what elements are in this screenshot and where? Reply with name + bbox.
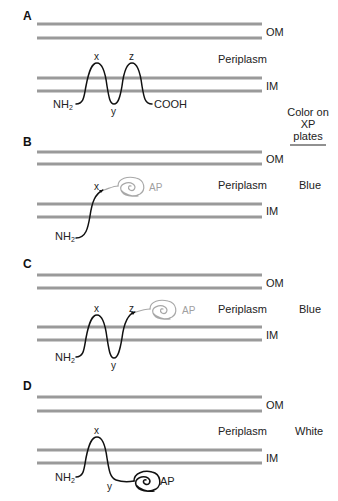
polypeptide-chain	[76, 190, 103, 238]
im-label: IM	[266, 205, 278, 217]
panel-letter: A	[23, 9, 32, 23]
periplasm-label: Periplasm	[218, 179, 267, 191]
polypeptide-chain	[76, 63, 152, 104]
ap-label: AP	[160, 475, 175, 487]
ap-linker	[104, 186, 118, 190]
n-terminus-label: NH2	[55, 351, 75, 364]
loop-y-label: y	[111, 106, 116, 117]
color-result: White	[295, 425, 323, 437]
ap-coil-cytoplasmic	[134, 471, 160, 491]
panel-b: B OM Periplasm Blue IM AP NH2 x	[23, 135, 321, 243]
panel-letter: B	[23, 135, 32, 149]
polypeptide-chain	[76, 312, 135, 358]
om-label: OM	[266, 26, 284, 38]
om-label: OM	[266, 277, 284, 289]
loop-z-label: z	[129, 51, 134, 62]
loop-y-label: y	[107, 481, 112, 492]
header-line-2: XP	[301, 118, 316, 130]
im-label: IM	[266, 80, 278, 92]
ap-label: AP	[149, 182, 163, 193]
n-terminus-label: NH2	[55, 471, 75, 484]
panel-letter: C	[23, 257, 32, 271]
header-line-1: Color on	[287, 106, 329, 118]
header-line-3: plates	[293, 130, 323, 142]
om-label: OM	[266, 399, 284, 411]
loop-x-label: x	[94, 425, 99, 436]
om-label: OM	[266, 153, 284, 165]
ap-coil-grey	[150, 300, 176, 319]
polypeptide-chain	[76, 437, 134, 482]
panel-letter: D	[23, 379, 32, 393]
periplasm-label: Periplasm	[218, 425, 267, 437]
c-terminus-label: COOH	[154, 98, 187, 110]
im-label: IM	[266, 452, 278, 464]
periplasm-label: Periplasm	[218, 53, 267, 65]
ap-linker	[136, 309, 150, 312]
panel-a: A OM Periplasm IM NH2 COOH x y z	[23, 9, 284, 117]
figure-canvas: Color on XP plates A OM Periplasm IM NH2…	[0, 0, 338, 501]
color-result: Blue	[299, 303, 321, 315]
membrane-topology-figure: Color on XP plates A OM Periplasm IM NH2…	[0, 0, 338, 501]
panel-c: C OM Periplasm Blue IM AP NH2 x y z	[23, 257, 321, 371]
im-label: IM	[266, 329, 278, 341]
color-column-header: Color on XP plates	[287, 106, 329, 145]
loop-y-label: y	[111, 360, 116, 371]
n-terminus-label: NH2	[53, 98, 73, 111]
color-result: Blue	[299, 179, 321, 191]
loop-x-label: x	[94, 181, 99, 192]
loop-z-label: z	[129, 303, 134, 314]
periplasm-label: Periplasm	[218, 303, 267, 315]
loop-x-label: x	[94, 303, 99, 314]
loop-x-label: x	[94, 51, 99, 62]
ap-coil-grey	[118, 177, 144, 196]
ap-label: AP	[182, 305, 196, 316]
n-terminus-label: NH2	[55, 230, 75, 243]
panel-d: D OM Periplasm White IM AP NH2 x y	[23, 379, 323, 492]
